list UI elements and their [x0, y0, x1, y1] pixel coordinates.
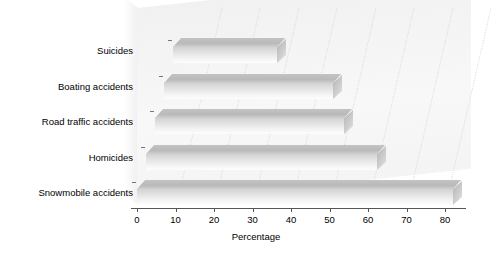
x-tick: [137, 208, 138, 212]
x-axis-title-label: Percentage: [232, 231, 281, 242]
bar-front-face: [173, 47, 277, 63]
x-tick: [291, 208, 292, 212]
x-tick: [368, 208, 369, 212]
category-tick: [150, 111, 154, 112]
x-tick-label: 20: [202, 214, 226, 225]
x-tick: [330, 208, 331, 212]
x-tick-label: 60: [356, 214, 380, 225]
bar-top-face: [155, 109, 352, 118]
bar-top-face: [164, 74, 341, 83]
x-tick-label: 70: [395, 214, 419, 225]
bar: [146, 148, 377, 170]
category-tick: [159, 76, 163, 77]
x-tick-label: 10: [164, 214, 188, 225]
x-tick: [253, 208, 254, 212]
x-tick: [214, 208, 215, 212]
x-axis-line: [131, 208, 466, 209]
bar-top-face: [137, 180, 461, 189]
category-tick: [132, 182, 136, 183]
x-tick-label: 80: [433, 214, 457, 225]
bar: [155, 112, 344, 134]
x-tick-label: 30: [241, 214, 265, 225]
bar: [164, 77, 333, 99]
bar: [137, 183, 453, 205]
category-tick: [141, 147, 145, 148]
x-tick-label: 0: [125, 214, 149, 225]
x-tick-label: 50: [318, 214, 342, 225]
bar: [173, 41, 277, 63]
x-tick: [176, 208, 177, 212]
x-tick: [445, 208, 446, 212]
category-tick: [168, 40, 172, 41]
bar-front-face: [164, 83, 333, 99]
bar-front-face: [155, 118, 344, 134]
category-label: Road traffic accidents: [42, 116, 133, 127]
bar-front-face: [137, 189, 453, 205]
bar-top-face: [173, 38, 285, 47]
bar-front-face: [146, 154, 377, 170]
x-tick-label: 40: [279, 214, 303, 225]
category-label: Snowmobile accidents: [38, 187, 133, 198]
x-axis-title: Percentage: [0, 231, 490, 242]
x-tick: [407, 208, 408, 212]
bar-top-face: [146, 145, 385, 154]
category-label: Boating accidents: [58, 81, 133, 92]
category-label: Homicides: [89, 152, 133, 163]
category-label: Suicides: [97, 45, 133, 56]
